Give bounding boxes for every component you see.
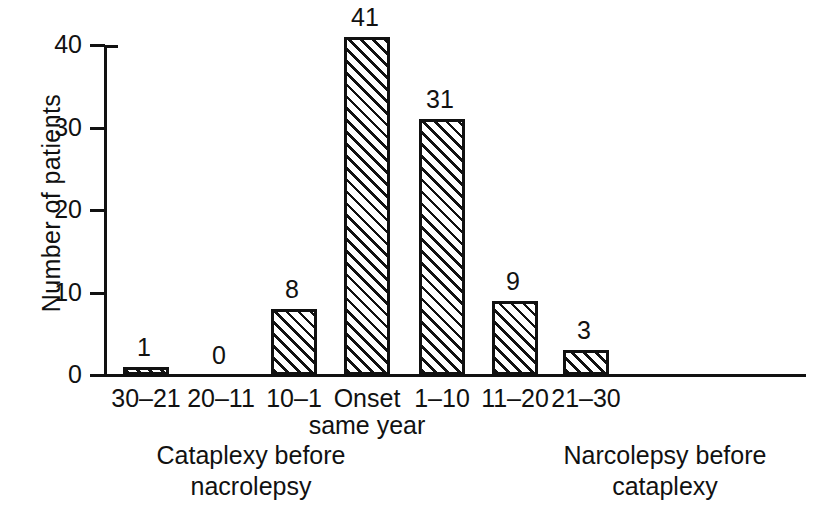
bar-value-label: 3 bbox=[531, 318, 637, 343]
bar[interactable] bbox=[563, 350, 609, 375]
y-axis-tick-label: 20 bbox=[30, 197, 82, 222]
y-axis-tick bbox=[90, 127, 105, 130]
bar-value-label: 0 bbox=[166, 343, 272, 368]
y-axis-tick-label: 30 bbox=[30, 115, 82, 140]
bar-value-label: 8 bbox=[239, 277, 345, 302]
y-axis-tick-label: 40 bbox=[30, 32, 82, 57]
y-axis-top-cap bbox=[104, 45, 118, 48]
y-axis-tick bbox=[90, 209, 105, 212]
group-caption-right: Narcolepsy before cataplexy bbox=[500, 440, 830, 501]
group-caption-left: Cataplexy before nacrolepsy bbox=[86, 440, 416, 501]
y-axis-tick bbox=[90, 374, 105, 377]
y-axis-tick-label: 0 bbox=[30, 362, 82, 387]
y-axis-tick-label: 10 bbox=[30, 280, 82, 305]
y-axis-tick bbox=[90, 292, 105, 295]
bar[interactable] bbox=[271, 309, 317, 375]
bar-value-label: 9 bbox=[460, 269, 566, 294]
bar[interactable] bbox=[123, 367, 169, 375]
bar-chart-figure: Number of patients 010203040 130–21020–1… bbox=[0, 0, 838, 513]
bar[interactable] bbox=[344, 37, 390, 375]
x-axis-tick-label: 21–30 bbox=[527, 385, 645, 412]
bar-value-label: 31 bbox=[387, 87, 493, 112]
y-axis-tick bbox=[90, 44, 105, 47]
bar[interactable] bbox=[419, 119, 465, 375]
bar-value-label: 41 bbox=[312, 5, 418, 30]
